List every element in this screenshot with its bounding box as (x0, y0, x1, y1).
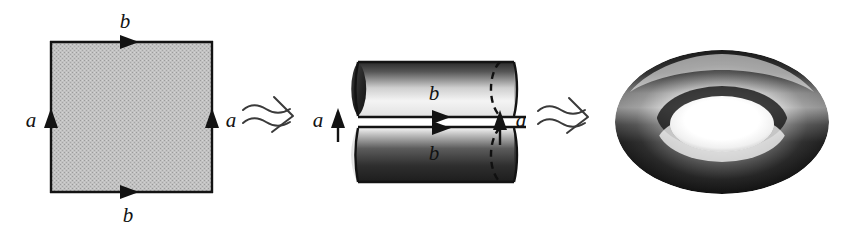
square-label-top-b: b (120, 9, 131, 33)
cylinder-edge-a-left-arrowhead (331, 108, 345, 128)
transition-arrow-1 (243, 97, 293, 132)
torus-inner-shading (656, 74, 788, 180)
square-label-left-a: a (26, 108, 37, 132)
cylinder-label-a-right: a (516, 108, 527, 132)
stage-cylinder: b b a a (313, 62, 530, 182)
transition-arrow-2 (538, 98, 588, 133)
stage-torus (615, 50, 829, 194)
cylinder-label-b-upper: b (429, 81, 440, 105)
figure-canvas: b b a a (0, 0, 854, 233)
cylinder-label-b-lower: b (429, 141, 440, 165)
squiggly-arrow-head-2 (567, 98, 588, 133)
cylinder-label-a-left: a (313, 108, 324, 132)
square-face (50, 41, 213, 193)
squiggly-arrow-head (272, 97, 293, 132)
square-label-right-a: a (226, 108, 237, 132)
torus-construction-figure: b b a a (0, 0, 854, 233)
square-label-bottom-b: b (123, 203, 134, 227)
stage-square: b b a a (26, 9, 237, 227)
